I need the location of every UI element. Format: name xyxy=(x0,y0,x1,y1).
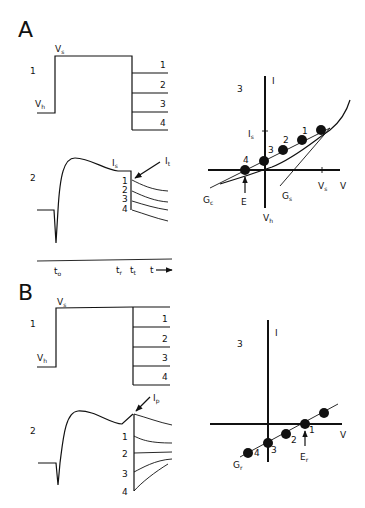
tail-number: 1 xyxy=(122,432,128,442)
x-axis-label: V xyxy=(340,430,347,440)
tt-label: tt xyxy=(130,265,137,276)
point-label: 2 xyxy=(291,435,297,445)
vh-label: Vh xyxy=(37,353,47,364)
point-label: 1 xyxy=(309,425,315,435)
t-label: t xyxy=(150,265,154,275)
panel-a-voltage-protocol: 1 Vs Vh 1 2 3 4 xyxy=(30,44,168,130)
panel-a-iv-plot: 3 I Is Vs V Vh 4 3 2 1 E Gc Gs xyxy=(203,76,350,224)
panel-a-current-trace: 2 Is It 1 2 3 4 xyxy=(30,156,171,243)
step-label: 4 xyxy=(160,118,166,128)
tail-number: 4 xyxy=(122,487,128,497)
step-label: 1 xyxy=(160,60,166,70)
tail-number: 4 xyxy=(122,204,128,214)
gs-label: Gs xyxy=(282,191,292,202)
vh-axis-label: Vh xyxy=(263,213,273,224)
panel-b-current-trace: 2 Ip 1 2 3 4 xyxy=(30,393,172,497)
panel-b-voltage-protocol: 1 Vs Vh 1 2 3 4 xyxy=(30,297,170,385)
it-label: It xyxy=(165,156,171,167)
point-label: 3 xyxy=(268,145,274,155)
is-label: Is xyxy=(112,158,118,169)
panel-label-b: B xyxy=(18,280,33,305)
y-axis-label: I xyxy=(272,76,275,86)
time-axis: to tr tt t xyxy=(37,259,172,277)
point-label: 4 xyxy=(243,155,249,165)
row-label-3: 3 xyxy=(237,339,243,349)
point-label: 4 xyxy=(254,448,260,458)
ip-label: Ip xyxy=(153,393,160,405)
t0-label: to xyxy=(54,266,62,277)
vh-label: Vh xyxy=(35,99,45,110)
panel-label-a: A xyxy=(18,17,33,42)
row-label-1: 1 xyxy=(30,319,36,329)
row-label-2: 2 xyxy=(30,426,36,436)
x-axis-label: V xyxy=(340,181,347,191)
point-label: 1 xyxy=(302,126,308,136)
tail-number: 2 xyxy=(122,449,128,459)
tail-number: 3 xyxy=(122,194,128,204)
y-axis-label: I xyxy=(275,328,278,338)
reversal-e-label: E xyxy=(241,197,247,207)
step-label: 3 xyxy=(160,99,166,109)
er-label: Er xyxy=(300,452,309,463)
tail-number: 3 xyxy=(122,469,128,479)
row-label-1: 1 xyxy=(30,66,36,76)
tr-label: tr xyxy=(116,265,123,276)
step-label: 2 xyxy=(162,334,168,344)
row-label-3: 3 xyxy=(237,84,243,94)
step-label: 1 xyxy=(162,314,168,324)
diagram-canvas: A 1 Vs Vh 1 2 3 4 2 Is It 1 2 3 4 to tr … xyxy=(0,0,365,508)
point-label: 2 xyxy=(283,135,289,145)
step-label: 2 xyxy=(160,80,166,90)
vs-label: Vs xyxy=(57,297,66,308)
point-label: 3 xyxy=(271,445,277,455)
vs-label: Vs xyxy=(55,44,64,55)
gc-label: Gc xyxy=(203,195,213,206)
step-label: 4 xyxy=(162,372,168,382)
gr-label: Gr xyxy=(233,460,243,471)
row-label-2: 2 xyxy=(30,173,36,183)
vs-axis-label: Vs xyxy=(318,181,327,192)
step-label: 3 xyxy=(162,353,168,363)
panel-b-iv-plot: 3 I 4 3 2 1 V Er Gr xyxy=(210,320,347,471)
is-axis-label: Is xyxy=(248,129,254,140)
